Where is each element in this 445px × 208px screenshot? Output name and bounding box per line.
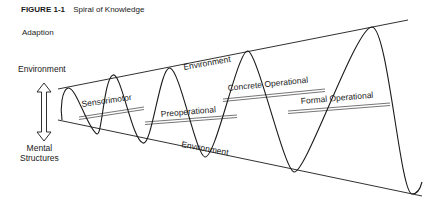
stage-label-concrete-operational: Concrete Operational: [227, 75, 309, 93]
spiral-diagram: Sensorimotor Preoperational Concrete Ope…: [0, 0, 445, 208]
double-headed-vertical-arrow-icon: [37, 83, 51, 141]
stage-label-sensorimotor: Sensorimotor: [81, 92, 133, 109]
bottom-boundary-environment-label: Environment: [181, 139, 230, 157]
spiral-wave: [61, 27, 422, 194]
stage-label-preoperational: Preoperational: [160, 104, 216, 119]
top-boundary-environment-label: Environment: [183, 54, 232, 72]
top-boundary-line: [58, 20, 408, 89]
stage-label-formal-operational: Formal Operational: [300, 90, 373, 106]
bottom-boundary-line: [58, 120, 422, 196]
